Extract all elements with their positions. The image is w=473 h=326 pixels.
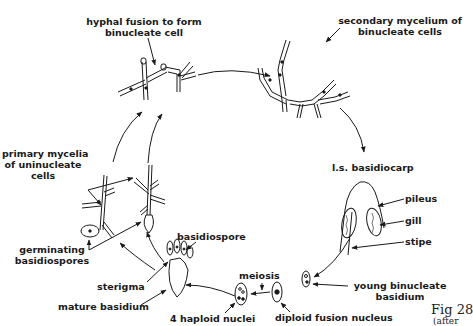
label-primary-mycelia-line3: cells	[2, 170, 84, 181]
label-primary-mycelia: primary mycelia of uninucleate cells	[2, 148, 84, 181]
leader-sterigma	[147, 262, 168, 282]
label-germinating-line1: germinating	[14, 244, 90, 255]
leader-diploid	[281, 303, 290, 312]
meiosis-arrow	[251, 292, 270, 294]
label-primary-mycelia-line2: of uninucleate	[2, 159, 84, 170]
label-pileus: pileus	[405, 193, 437, 204]
secondary-mycelium-illustration	[258, 40, 350, 118]
label-hyphal-fusion: hyphal fusion to form binucleate cell	[84, 16, 204, 38]
cycle-arrow-to-mature-basidium	[186, 285, 235, 296]
cycle-arrow-left-1	[120, 243, 155, 270]
figure-caption-number: Fig 28	[431, 302, 473, 317]
label-secondary-mycelium-line1: secondary mycelium of	[338, 15, 462, 26]
label-stipe: stipe	[405, 236, 432, 247]
hyphal-fusion-illustration	[118, 58, 196, 100]
cycle-arrow-up-2	[148, 114, 162, 163]
figure-caption-source: (after	[433, 316, 458, 326]
label-germinating-basidiospores: germinating basidiospores	[14, 244, 90, 266]
cycle-arrow-to-young-basidium	[314, 238, 350, 277]
label-hyphal-fusion-line2: binucleate cell	[84, 27, 204, 38]
label-young-basidium-line1: young binucleate	[350, 280, 450, 291]
cycle-arrow-to-basidiocarp	[340, 108, 364, 152]
label-diploid-fusion-nucleus: diploid fusion nucleus	[275, 312, 393, 323]
leader-hyphal-fusion	[148, 38, 155, 65]
leader-pileus	[378, 199, 404, 206]
leader-germinating-2	[89, 222, 141, 250]
label-basidiospore: basidiospore	[177, 231, 246, 242]
label-basidiocarp: l.s. basidiocarp	[332, 162, 414, 173]
label-hyphal-fusion-line1: hyphal fusion to form	[84, 16, 204, 27]
leader-primary-mycelia-2	[88, 178, 133, 190]
label-young-basidium: young binucleate basidium	[350, 280, 450, 302]
label-haploid-nuclei: 4 haploid nuclei	[170, 313, 255, 324]
label-germinating-line2: basidiospores	[14, 255, 90, 266]
label-secondary-mycelium: secondary mycelium of binucleate cells	[338, 15, 462, 37]
label-secondary-mycelium-line2: binucleate cells	[338, 26, 462, 37]
cycle-arrow-left-2	[147, 232, 164, 262]
leader-haploid	[225, 303, 235, 313]
label-sterigma: sterigma	[97, 281, 145, 292]
label-primary-mycelia-line1: primary mycelia	[2, 148, 84, 159]
label-gill: gill	[405, 215, 422, 226]
label-young-basidium-line2: basidium	[350, 291, 450, 302]
label-mature-basidium: mature basidium	[58, 301, 149, 312]
haploid-nuclei-cell-illustration	[235, 283, 247, 305]
label-meiosis: meiosis	[239, 270, 280, 281]
leader-stipe	[352, 242, 404, 248]
young-basidium-illustration	[302, 271, 310, 287]
cycle-arrow-up-1	[113, 112, 142, 162]
leader-young-basidium	[313, 284, 348, 286]
leader-basidiospore	[186, 242, 196, 250]
diploid-cell-illustration	[272, 282, 282, 302]
